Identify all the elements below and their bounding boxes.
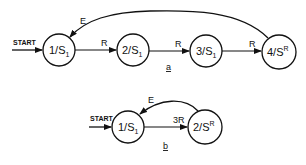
transition-label-b-1-2: 3R [173, 115, 185, 125]
transition-label-a-1-2: R [101, 38, 108, 48]
state-b-1: 1/S1 [112, 111, 144, 143]
transition-label-a-2-3: R [175, 39, 182, 49]
start-label-b: START [90, 115, 114, 122]
state-a-1: 1/S1 [43, 34, 75, 66]
caption-a: a [166, 62, 171, 72]
state-a-3: 3/S1 [190, 35, 222, 67]
transition-label-b-2-1: E [148, 95, 154, 105]
caption-b: b [163, 141, 168, 151]
state-a-2: 2/S1 [117, 34, 149, 66]
transition-label-a-3-4: R [249, 39, 256, 49]
state-a-4: 4/SR [262, 35, 296, 69]
diagram-a: START 1/S1 2/S1 3/S1 4/SR R R R E a [12, 11, 296, 72]
diagram-b: START 1/S1 2/SR 3R E b [89, 95, 222, 151]
state-b-2: 2/SR [188, 110, 222, 144]
transition-label-a-4-1: E [80, 16, 86, 26]
start-label-a: START [13, 39, 37, 46]
transition-a-4-1 [70, 11, 268, 38]
state-diagrams: START 1/S1 2/S1 3/S1 4/SR R R R E a [0, 0, 306, 165]
